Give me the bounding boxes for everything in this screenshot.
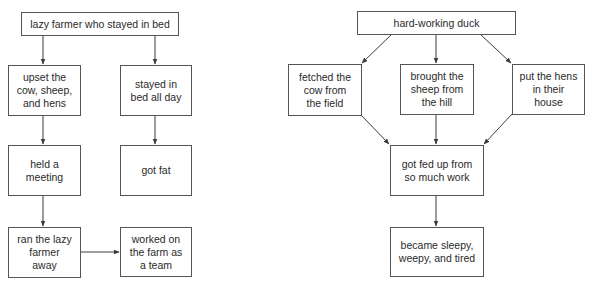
node-held-meeting: held a meeting [8, 145, 81, 196]
node-fetched-cow: fetched the cow from the field [288, 64, 362, 116]
node-hard-working-duck: hard-working duck [357, 11, 516, 35]
node-became-sleepy: became sleepy, weepy, and tired [390, 227, 484, 277]
arrow-duck-to-fetched [362, 34, 392, 63]
node-got-fed-up: got fed up from so much work [390, 145, 484, 196]
node-upset-animals: upset the cow, sheep, and hens [8, 65, 81, 116]
node-lazy-farmer: lazy farmer who stayed in bed [21, 12, 179, 36]
arrow-duck-to-hens [480, 34, 511, 63]
node-ran-farmer-away: ran the lazy farmer away [8, 227, 81, 278]
arrow-hens-to-fedup [484, 114, 512, 144]
node-worked-as-team: worked on the farm as a team [120, 227, 192, 277]
flowchart-canvas: lazy farmer who stayed in bed upset the … [0, 0, 591, 286]
node-put-hens: put the hens in their house [512, 64, 585, 115]
node-brought-sheep: brought the sheep from the hill [400, 64, 474, 115]
arrow-fetched-to-fedup [361, 115, 389, 144]
node-got-fat: got fat [120, 145, 192, 196]
connector-layer [0, 0, 591, 286]
node-stayed-in-bed: stayed in bed all day [120, 65, 192, 116]
